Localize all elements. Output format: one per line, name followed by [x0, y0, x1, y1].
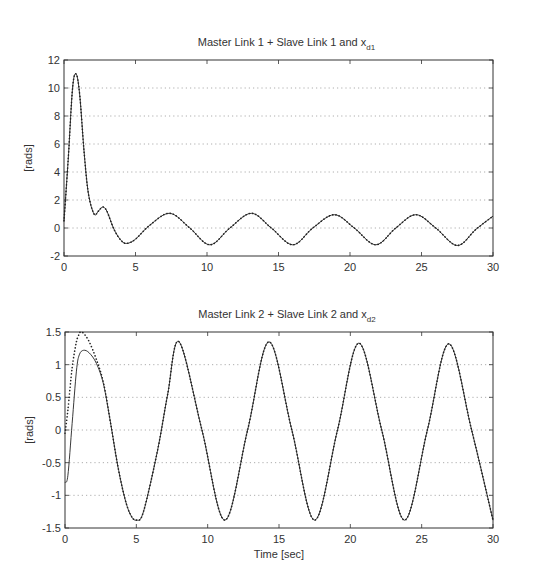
x-tick-label: 15 [272, 261, 284, 273]
x-tick-label: 15 [273, 533, 285, 545]
y-tick-label: 12 [48, 54, 60, 66]
x-axis-label: Time [sec] [254, 548, 304, 560]
y-tick-label: 6 [54, 138, 60, 150]
x-tick-label: 30 [487, 533, 499, 545]
x-tick-label: 0 [61, 261, 67, 273]
y-tick-label: 2 [54, 194, 60, 206]
x-tick-label: 25 [416, 533, 428, 545]
x-tick-label: 25 [415, 261, 427, 273]
series-desired-dotted [65, 332, 493, 520]
series-link-solid [64, 74, 493, 246]
y-tick-label: 1 [55, 359, 61, 371]
y-tick-label: 0 [55, 424, 61, 436]
chart-title: Master Link 1 + Slave Link 1 and xd1 [198, 36, 376, 52]
y-tick-label: 10 [48, 82, 60, 94]
x-tick-label: 5 [132, 261, 138, 273]
y-tick-label: -1 [51, 489, 61, 501]
x-tick-label: 20 [344, 533, 356, 545]
series-desired-dotted [64, 74, 493, 246]
y-tick-label: 4 [54, 166, 60, 178]
y-tick-label: -0.5 [42, 457, 61, 469]
y-tick-label: -1.5 [42, 522, 61, 534]
axes-frame [65, 332, 493, 528]
x-tick-label: 20 [344, 261, 356, 273]
axes-frame [64, 60, 493, 256]
y-tick-label: 0.5 [46, 391, 61, 403]
x-tick-label: 0 [62, 533, 68, 545]
y-tick-label: 8 [54, 110, 60, 122]
chart-title: Master Link 2 + Slave Link 2 and xd2 [198, 308, 376, 324]
plot-2: 051015202530-1.5-1-0.500.511.5Master Lin… [23, 308, 499, 560]
y-axis-label: [rads] [22, 144, 34, 172]
y-tick-label: -2 [50, 250, 60, 262]
y-axis-label: [rads] [23, 416, 35, 444]
x-tick-label: 30 [487, 261, 499, 273]
figure: 051015202530-2024681012Master Link 1 + S… [0, 0, 536, 583]
x-tick-label: 10 [202, 533, 214, 545]
x-tick-label: 10 [201, 261, 213, 273]
plot-1: 051015202530-2024681012Master Link 1 + S… [22, 36, 499, 273]
x-tick-label: 5 [133, 533, 139, 545]
y-tick-label: 0 [54, 222, 60, 234]
y-tick-label: 1.5 [46, 326, 61, 338]
